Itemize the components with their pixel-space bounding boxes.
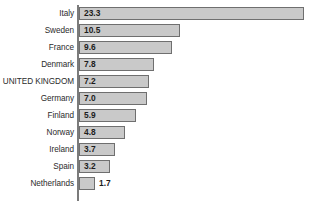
bar-value-label: 9.6 bbox=[84, 41, 96, 54]
bar-container: 1.7 bbox=[79, 177, 95, 190]
bar-container: 10.5 bbox=[79, 24, 180, 37]
bar-rows-container: Italy23.3Sweden10.5France9.6Denmark7.8UN… bbox=[0, 6, 313, 193]
bar-row: Finland5.9 bbox=[0, 108, 313, 125]
bar bbox=[79, 177, 95, 190]
bar-container: 4.8 bbox=[79, 126, 125, 139]
category-label: Germany bbox=[41, 91, 74, 108]
bar-row: Ireland3.7 bbox=[0, 142, 313, 159]
bar-row: France9.6 bbox=[0, 40, 313, 57]
bar bbox=[79, 7, 304, 20]
bar-row: Germany7.0 bbox=[0, 91, 313, 108]
bar-container: 7.2 bbox=[79, 75, 149, 88]
category-label: Sweden bbox=[45, 23, 74, 40]
category-label: Ireland bbox=[49, 142, 74, 159]
bar-value-label: 3.7 bbox=[84, 143, 96, 156]
bar-row: Italy23.3 bbox=[0, 6, 313, 23]
bar-container: 7.8 bbox=[79, 58, 154, 71]
category-label: Italy bbox=[59, 6, 74, 23]
bar-row: Sweden10.5 bbox=[0, 23, 313, 40]
category-label: Denmark bbox=[41, 57, 74, 74]
bar-value-label: 3.2 bbox=[84, 160, 96, 173]
category-label: France bbox=[49, 40, 74, 57]
bar-container: 5.9 bbox=[79, 109, 136, 122]
category-label: Spain bbox=[53, 159, 74, 176]
bar-row: Netherlands1.7 bbox=[0, 176, 313, 193]
bar-row: Spain3.2 bbox=[0, 159, 313, 176]
bar-value-label: 23.3 bbox=[84, 7, 100, 20]
category-label: Norway bbox=[47, 125, 74, 142]
bar-row: Norway4.8 bbox=[0, 125, 313, 142]
bar-value-label: 10.5 bbox=[84, 24, 100, 37]
bar-value-label: 7.8 bbox=[84, 58, 96, 71]
bar-row: Denmark7.8 bbox=[0, 57, 313, 74]
bar-container: 23.3 bbox=[79, 7, 304, 20]
bar-container: 9.6 bbox=[79, 41, 172, 54]
bar-container: 7.0 bbox=[79, 92, 147, 105]
bar-container: 3.7 bbox=[79, 143, 115, 156]
bar-row: UNITED KINGDOM7.2 bbox=[0, 74, 313, 91]
bar-value-label: 7.0 bbox=[84, 92, 96, 105]
bar-value-label: 4.8 bbox=[84, 126, 96, 139]
bar-container: 3.2 bbox=[79, 160, 110, 173]
category-label: Netherlands bbox=[30, 176, 74, 193]
bar-value-label: 1.7 bbox=[99, 177, 111, 190]
category-label: Finland bbox=[47, 108, 74, 125]
bar-value-label: 5.9 bbox=[84, 109, 96, 122]
bar-chart: Italy23.3Sweden10.5France9.6Denmark7.8UN… bbox=[0, 0, 313, 209]
category-label: UNITED KINGDOM bbox=[3, 74, 74, 91]
bar-value-label: 7.2 bbox=[84, 75, 96, 88]
